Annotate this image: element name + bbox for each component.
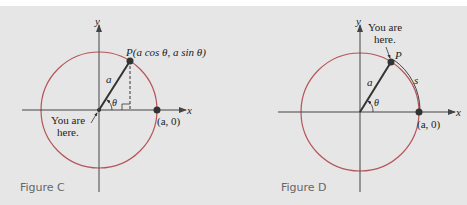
point-p-label: P(a cos θ, a sin θ) [125,46,206,59]
point-a0 [416,109,423,116]
radius-label: a [106,73,112,85]
figures-svg: y x P(a cos θ, a sin θ) a θ (a, 0) You a… [0,0,467,205]
you-are-here-line2: here. [374,33,396,45]
arc-label: s [414,74,418,86]
you-are-here-line1: You are [368,21,402,33]
figure-d: y x P a s θ (a, 0) You are here. [278,15,461,192]
angle-label: θ [374,97,379,108]
point-p [388,59,395,66]
start-point-label: (a, 0) [157,115,181,128]
figure-c: y x P(a cos θ, a sin θ) a θ (a, 0) You a… [22,15,206,192]
angle-label: θ [112,97,117,108]
start-point-label: (a, 0) [417,118,441,131]
you-are-here-line2: here. [57,126,79,138]
x-axis-label: x [186,104,192,116]
origin-point [97,108,101,112]
you-are-here-line1: You are [51,114,85,126]
radius-label: a [367,76,373,88]
you-are-here-pointer [386,47,390,58]
y-axis-label: y [355,15,361,27]
right-angle-mark [122,104,130,110]
figure-d-caption: Figure D [281,181,327,194]
point-p-label: P [394,49,402,61]
y-axis-label: y [94,15,100,27]
point-p [127,58,134,65]
figure-c-caption: Figure C [20,181,65,194]
angle-arc [368,101,373,112]
point-a0 [154,107,161,114]
you-are-here-pointer [91,113,97,123]
x-axis-label: x [455,106,461,118]
